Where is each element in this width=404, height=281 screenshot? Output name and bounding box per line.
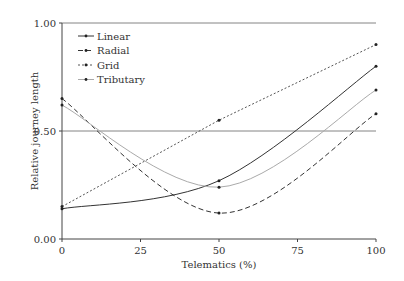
legend-marker — [85, 64, 88, 67]
legend-label: Radial — [97, 45, 129, 56]
data-point — [218, 179, 221, 182]
line-chart: 02550751000.000.501.00 LinearRadialGridT… — [0, 0, 404, 281]
legend-marker — [85, 35, 88, 38]
x-tick-label: 100 — [366, 245, 385, 256]
data-point — [218, 119, 221, 122]
legend-label: Tributary — [97, 74, 145, 85]
y-axis-label: Relative journey length — [29, 71, 40, 190]
data-point — [375, 65, 378, 68]
x-tick-label: 25 — [134, 245, 147, 256]
y-tick-label: 1.00 — [34, 18, 56, 29]
data-point — [218, 212, 221, 215]
legend-marker — [85, 78, 88, 81]
legend-marker — [85, 49, 88, 52]
axes: 02550751000.000.501.00 — [34, 18, 386, 257]
legend: LinearRadialGridTributary — [78, 31, 145, 86]
data-point — [61, 205, 64, 208]
x-axis-label: Telematics (%) — [182, 259, 257, 270]
y-tick-label: 0.00 — [34, 234, 56, 245]
x-tick-label: 75 — [291, 245, 304, 256]
data-point — [218, 186, 221, 189]
legend-label: Linear — [97, 31, 130, 42]
data-point — [375, 43, 378, 46]
x-tick-label: 50 — [213, 245, 226, 256]
data-point — [375, 112, 378, 115]
data-point — [375, 88, 378, 91]
x-tick-label: 0 — [59, 245, 65, 256]
legend-label: Grid — [97, 60, 120, 71]
data-point — [61, 104, 64, 107]
data-point — [61, 97, 64, 100]
series-radial — [62, 99, 376, 214]
